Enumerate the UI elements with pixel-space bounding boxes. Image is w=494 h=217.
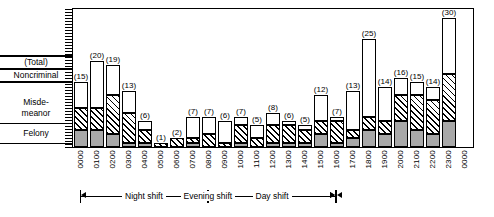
bar-0600: (2) [170,138,184,147]
y-axis-tick [65,27,72,28]
y-axis-tick [65,147,72,148]
bar-segment-felony [282,143,296,147]
bar-0100: (20) [90,61,104,147]
y-axis-tick [65,39,72,40]
y-axis-tick [65,96,72,97]
x-axis-label-1500: 1500 [316,150,325,169]
bar-1200: (8) [266,113,280,148]
legend-label-total: (Total) [0,57,72,69]
bar-0400: (6) [138,121,152,147]
y-axis-tick [65,129,72,130]
y-axis-tick [65,120,72,121]
bar-value-label: (19) [106,55,120,64]
bar-segment-noncriminal [442,18,456,74]
y-axis-tick [65,111,72,112]
y-axis-tick [65,30,72,31]
y-axis-tick [65,48,72,49]
x-axis-label-1800: 1800 [364,150,373,169]
x-axis-label-0800: 0800 [204,150,213,169]
y-axis-tick [65,33,72,34]
bar-segment-felony [74,130,88,147]
y-axis-tick [65,144,72,145]
legend-label-misdemeanor-line1: Misde- [0,97,72,109]
bar-segment-noncriminal [218,121,232,143]
bar-value-label: (7) [188,107,198,116]
bar-segment-felony [314,134,328,147]
bar-segment-felony [394,121,408,147]
bar-segment-noncriminal [282,121,296,125]
bar-segment-misdemeanor [266,125,280,142]
y-axis-tick [65,141,72,142]
y-axis-tick [65,72,72,73]
x-axis-label-1600: 1600 [332,150,341,169]
bar-1000: (7) [234,117,248,147]
x-axis-label-0700: 0700 [188,150,197,169]
y-axis-tick [65,135,72,136]
y-axis-tick [65,99,72,100]
bar-value-label: (6) [284,111,294,120]
y-axis-tick [65,84,72,85]
bar-segment-misdemeanor [106,95,120,134]
bar-segment-misdemeanor [122,113,136,143]
bar-segment-noncriminal [138,121,152,130]
bar-segment-misdemeanor [234,125,248,142]
bar-segment-noncriminal [266,113,280,126]
bar-segment-misdemeanor [74,108,88,130]
bar-value-label: (30) [442,8,456,17]
bar-segment-noncriminal [90,61,104,108]
shift-arrow-right [330,192,335,198]
x-axis-label-0900: 0900 [220,150,229,169]
bar-segment-felony [330,143,344,147]
bar-0200: (19) [106,65,120,147]
legend-label-felony: Felony [0,128,72,140]
bar-segment-misdemeanor [298,130,312,143]
shift-label: Night shift [122,191,166,201]
bar-value-label: (12) [314,85,328,94]
bar-segment-felony [410,130,424,147]
bar-value-label: (14) [426,77,440,86]
bar-segment-felony [234,143,248,147]
bar-value-label: (15) [74,72,88,81]
bar-segment-misdemeanor [154,143,168,147]
x-axis-label-0400: 0400 [140,150,149,169]
y-axis-tick [65,90,72,91]
x-axis-label-2100: 2100 [412,150,421,169]
x-axis-label-2000: 2000 [396,150,405,169]
y-axis-tick [65,18,72,19]
bar-segment-misdemeanor [410,95,424,130]
bar-2300: (30) [442,18,456,147]
bar-0900: (6) [218,121,232,147]
bar-value-label: (16) [394,68,408,77]
x-axis-label-1200: 1200 [268,150,277,169]
y-axis-tick [65,138,72,139]
y-axis-tick [65,93,72,94]
bar-1900: (14) [378,87,392,147]
bar-value-label: (6) [140,111,150,120]
bar-2100: (15) [410,82,424,147]
bar-1600: (7) [330,117,344,147]
bar-value-label: (13) [122,81,136,90]
x-axis-labels: 0000010002000300040005000600070008000900… [72,150,474,184]
bar-segment-noncriminal [394,78,408,95]
legend-rule-4 [0,143,72,145]
bar-segment-misdemeanor [442,74,456,121]
bar-segment-felony [298,143,312,147]
y-axis-tick [65,45,72,46]
y-axis-tick [65,117,72,118]
bar-1500: (12) [314,95,328,147]
shift-annotations: Night shiftDay shiftEvening shift [72,188,474,210]
x-axis-label-2300: 2300 [444,150,453,169]
y-axis-tick [65,75,72,76]
bar-value-label: (5) [300,115,310,124]
x-axis-label-0200: 0200 [108,150,117,169]
bar-0500: (1) [154,143,168,147]
x-axis-label-1400: 1400 [300,150,309,169]
x-axis-label-1900: 1900 [380,150,389,169]
bar-value-label: (6) [220,111,230,120]
bar-2200: (14) [426,87,440,147]
bar-segment-felony [106,134,120,147]
y-axis-tick [65,42,72,43]
y-axis-tick [65,132,72,133]
bar-segment-misdemeanor [202,134,216,147]
bar-value-label: (15) [410,72,424,81]
